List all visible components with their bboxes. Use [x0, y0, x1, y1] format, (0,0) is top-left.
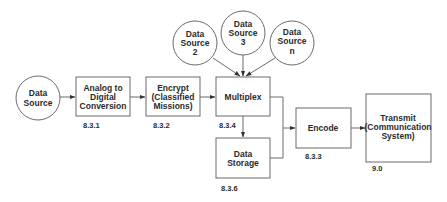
- node-data-source: Data Source: [16, 76, 60, 120]
- encrypt-number: 8.3.2: [153, 121, 170, 130]
- node-data-source-3: Data Source 3: [221, 11, 265, 55]
- data-source-n-label-2: Source: [278, 36, 307, 46]
- encode-label: Encode: [308, 123, 339, 133]
- data-source-label-1: Data: [29, 88, 48, 98]
- multiplex-label: Multiplex: [225, 92, 262, 102]
- storage-label-2: Storage: [227, 158, 259, 168]
- storage-number: 8.3.6: [221, 184, 238, 193]
- node-transmit: Transmit (Communication System) 9.0: [364, 94, 431, 173]
- flow-diagram: Data Source Data Source 2 Data Source 3 …: [0, 0, 447, 202]
- node-data-source-2: Data Source 2: [173, 21, 217, 65]
- encrypt-label-3: Missions): [153, 101, 192, 111]
- data-source-3-label-3: 3: [241, 37, 246, 47]
- analog-number: 8.3.1: [83, 121, 100, 130]
- edge-bracket-multiplex-storage: [270, 97, 283, 158]
- data-source-label-2: Source: [24, 98, 53, 108]
- analog-label-3: Conversion: [80, 101, 127, 111]
- node-encode: Encode 8.3.3: [296, 108, 351, 161]
- node-encrypt: Encrypt (Classified Missions) 8.3.2: [146, 77, 200, 130]
- edge-sourcen-to-multiplex: [246, 58, 275, 76]
- multiplex-number: 8.3.4: [219, 121, 237, 130]
- data-source-n-label-3: n: [289, 46, 294, 56]
- edge-source2-to-multiplex: [213, 58, 240, 76]
- encode-number: 8.3.3: [305, 152, 322, 161]
- transmit-number: 9.0: [372, 164, 382, 173]
- node-data-storage: Data Storage 8.3.6: [216, 138, 270, 193]
- node-data-source-n: Data Source n: [270, 21, 314, 65]
- node-analog-to-digital: Analog to Digital Conversion 8.3.1: [76, 77, 130, 130]
- transmit-label-3: System): [381, 131, 414, 141]
- data-source-2-label-3: 2: [193, 47, 198, 57]
